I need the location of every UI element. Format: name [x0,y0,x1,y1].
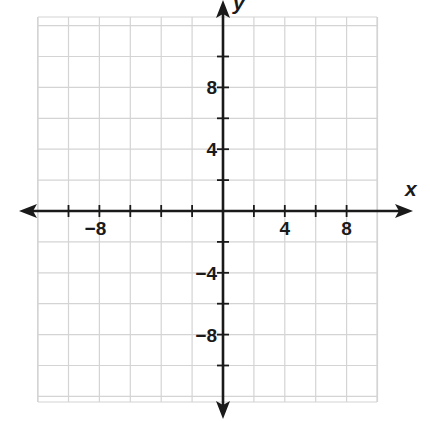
x-tick-label: 4 [280,218,291,239]
y-tick-label: 4 [206,139,217,160]
x-axis-label: x [404,177,418,200]
coordinate-plane: −84884−4−8 x y [0,0,430,421]
y-tick-label: 8 [206,77,217,98]
x-tick-label: 8 [341,218,352,239]
axes [19,0,413,419]
y-tick-label: −4 [195,263,217,284]
y-tick-label: −8 [195,325,217,346]
y-axis-label: y [232,0,246,14]
x-tick-label: −8 [85,218,107,239]
